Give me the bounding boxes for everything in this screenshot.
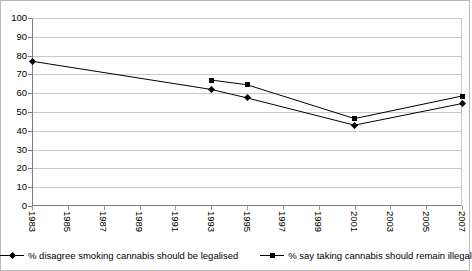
x-axis-tick bbox=[462, 206, 463, 210]
gridline bbox=[33, 37, 461, 38]
x-axis-tick bbox=[390, 206, 391, 210]
x-axis-tick bbox=[426, 206, 427, 210]
y-axis-tick-label: 80 bbox=[2, 51, 27, 61]
diamond-marker-icon bbox=[0, 251, 24, 260]
x-axis-tick bbox=[140, 206, 141, 210]
x-axis-tick-label: 1989 bbox=[135, 211, 145, 232]
x-axis-tick-label: 1995 bbox=[242, 211, 252, 232]
legend-label: % disagree smoking cannabis should be le… bbox=[28, 250, 238, 261]
x-axis-tick bbox=[32, 206, 33, 210]
data-point-marker bbox=[209, 78, 214, 83]
legend-item[interactable]: % disagree smoking cannabis should be le… bbox=[0, 250, 238, 261]
x-axis-tick-label: 1985 bbox=[63, 211, 73, 232]
x-axis-tick-label: 1983 bbox=[27, 211, 37, 232]
legend-label: % say taking cannabis should remain ille… bbox=[288, 250, 472, 261]
gridline bbox=[33, 112, 461, 113]
y-axis-tick-label: 60 bbox=[2, 88, 27, 98]
data-point-marker bbox=[460, 94, 465, 99]
legend-item[interactable]: % say taking cannabis should remain ille… bbox=[260, 250, 472, 261]
data-point-marker bbox=[245, 82, 250, 87]
x-axis-tick bbox=[175, 206, 176, 210]
y-axis-tick-label: 70 bbox=[2, 69, 27, 79]
x-axis-tick-label: 2005 bbox=[421, 211, 431, 232]
x-axis-tick bbox=[319, 206, 320, 210]
y-axis-tick-label: 20 bbox=[2, 163, 27, 173]
x-axis-tick-label: 2001 bbox=[350, 211, 360, 232]
x-axis-tick bbox=[247, 206, 248, 210]
x-axis-tick bbox=[68, 206, 69, 210]
y-axis-tick-label: 40 bbox=[2, 126, 27, 136]
x-axis-tick-label: 2007 bbox=[457, 211, 467, 232]
gridline bbox=[33, 150, 461, 151]
square-marker-icon bbox=[260, 251, 284, 260]
x-axis-tick-label: 1999 bbox=[314, 211, 324, 232]
x-axis-tick-label: 1993 bbox=[206, 211, 216, 232]
y-axis-tick-label: 0 bbox=[2, 201, 27, 211]
x-axis-tick-label: 2003 bbox=[385, 211, 395, 232]
gridline bbox=[33, 187, 461, 188]
x-axis-tick bbox=[104, 206, 105, 210]
gridline bbox=[33, 168, 461, 169]
gridline bbox=[33, 56, 461, 57]
x-axis-tick-label: 1997 bbox=[278, 211, 288, 232]
plot-area bbox=[32, 18, 462, 206]
y-axis-tick-label: 50 bbox=[2, 107, 27, 117]
x-axis-tick bbox=[355, 206, 356, 210]
gridline bbox=[33, 74, 461, 75]
x-axis-tick-label: 1991 bbox=[170, 211, 180, 232]
y-axis-tick-label: 30 bbox=[2, 145, 27, 155]
y-axis-tick-label: 90 bbox=[2, 32, 27, 42]
x-axis-tick bbox=[211, 206, 212, 210]
gridline bbox=[33, 131, 461, 132]
y-axis-tick-label: 100 bbox=[2, 13, 27, 23]
y-axis-tick-label: 10 bbox=[2, 182, 27, 192]
chart-legend: % disagree smoking cannabis should be le… bbox=[1, 241, 471, 269]
x-axis-tick-label: 1987 bbox=[99, 211, 109, 232]
x-axis-tick bbox=[283, 206, 284, 210]
data-point-marker bbox=[352, 116, 357, 121]
